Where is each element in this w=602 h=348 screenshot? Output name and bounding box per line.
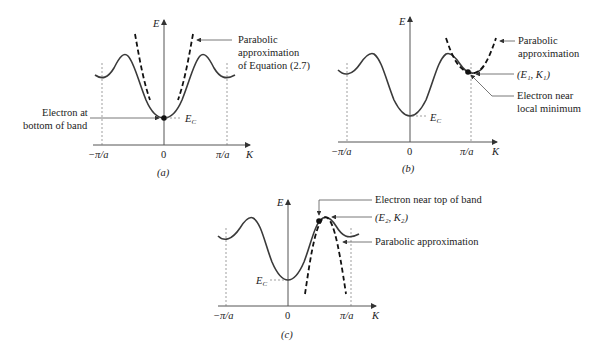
- k-axis-label: K: [491, 146, 500, 157]
- e-axis-label: E: [398, 16, 406, 27]
- electron-dot: [316, 218, 322, 224]
- panel-caption-b: (b): [402, 163, 415, 175]
- annotation-point: (E₁, K₁): [517, 69, 550, 81]
- annotation-electron-2: bottom of band: [23, 120, 88, 131]
- ec-label: EC: [429, 112, 441, 125]
- tick-pi-a: π/a: [216, 149, 229, 160]
- panel-b: EC E K −π/a 0 π/a (b) Parabolic approxim…: [331, 16, 581, 175]
- tick-neg-pi-a: −π/a: [88, 149, 109, 160]
- tick-zero: 0: [285, 310, 290, 321]
- ec-label: EC: [184, 113, 196, 126]
- annotation-electron-2: local minimum: [517, 103, 581, 114]
- band-structure-figure: EC E K −π/a 0 π/a (a) Parabolic approxim…: [0, 0, 602, 348]
- annotation-parabola-1: Parabolic: [238, 34, 278, 45]
- k-axis-label: K: [245, 149, 254, 160]
- annotation-parabola-1: Parabolic: [518, 35, 558, 46]
- panel-a: EC E K −π/a 0 π/a (a) Parabolic approxim…: [23, 18, 311, 179]
- k-axis-label: K: [371, 310, 380, 321]
- annotation-parabola-2: approximation: [238, 47, 300, 58]
- electron-dot: [465, 69, 471, 75]
- leader-electron-c: [319, 200, 372, 215]
- annotation-parabola-3: of Equation (2.7): [238, 60, 311, 72]
- panel-c: EC E K −π/a 0 π/a (c) Electron near top …: [213, 194, 482, 341]
- e-axis-label: E: [276, 197, 284, 208]
- annotation-electron-1: Electron at: [42, 107, 88, 118]
- tick-neg-pi-a: −π/a: [213, 310, 234, 321]
- e-axis-label: E: [152, 18, 160, 29]
- tick-pi-a: π/a: [340, 310, 353, 321]
- electron-dot: [161, 115, 167, 121]
- ec-label: EC: [255, 275, 267, 288]
- panel-caption-a: (a): [157, 167, 170, 179]
- panel-caption-c: (c): [281, 329, 293, 341]
- energy-band-curve: [338, 53, 484, 116]
- leader-electron-b: [471, 75, 514, 96]
- annotation-parabola-2: approximation: [518, 48, 580, 59]
- parabolic-approximation: [305, 217, 346, 294]
- annotation-point: (E₂, K₂): [375, 212, 408, 224]
- tick-neg-pi-a: −π/a: [331, 146, 352, 157]
- tick-zero: 0: [407, 146, 412, 157]
- annotation-parabola: Parabolic approximation: [375, 236, 479, 247]
- tick-pi-a: π/a: [460, 146, 473, 157]
- annotation-electron: Electron near top of band: [375, 194, 482, 205]
- tick-zero: 0: [161, 149, 166, 160]
- energy-band-curve: [95, 55, 235, 119]
- annotation-electron-1: Electron near: [517, 90, 574, 101]
